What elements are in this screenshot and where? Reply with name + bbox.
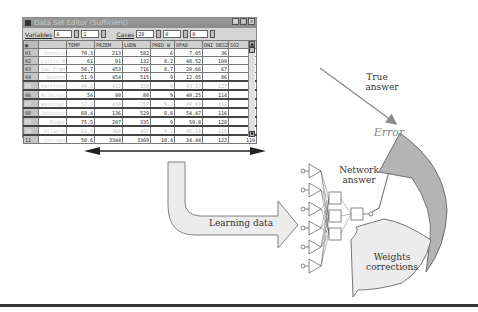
true-answer-line2: answer: [352, 82, 402, 92]
weights-corrections-label: Weights corrections: [357, 252, 427, 272]
learning-data-arrow-icon: [168, 162, 298, 248]
learning-data-label: Learning data: [205, 218, 277, 228]
network-answer-line2: answer: [334, 175, 384, 185]
weights-corrections-line1: Weights: [357, 252, 427, 262]
bottom-divider: [0, 304, 478, 307]
true-answer-label: True answer: [352, 72, 402, 92]
network-answer-label: Network answer: [334, 165, 384, 185]
weights-corrections-line2: corrections: [357, 262, 427, 272]
error-label: Error: [367, 128, 411, 138]
true-answer-line1: True: [352, 72, 402, 82]
network-answer-line1: Network: [334, 165, 384, 175]
double-arrow-icon: [84, 147, 266, 155]
